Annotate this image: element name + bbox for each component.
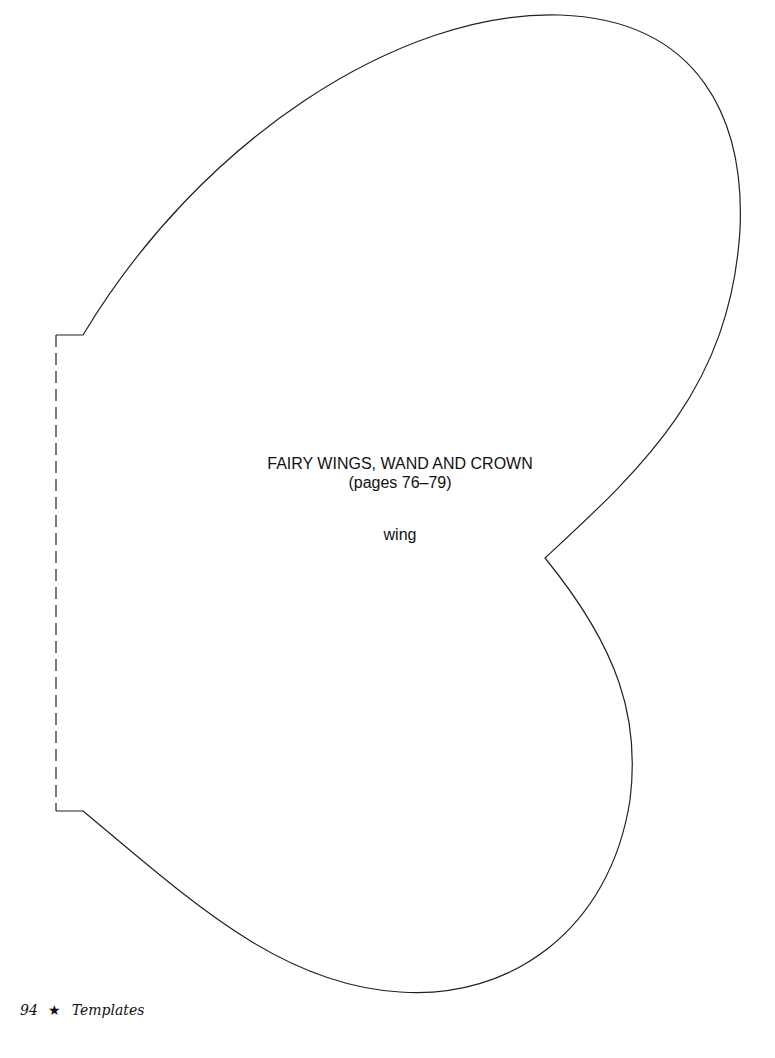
page-number: 94: [20, 1002, 38, 1018]
template-pages: (pages 76–79): [200, 473, 600, 492]
piece-label: wing: [200, 526, 600, 544]
section-name: Templates: [72, 1002, 145, 1018]
wing-cut-line: [56, 15, 740, 993]
template-title: FAIRY WINGS, WAND AND CROWN: [200, 454, 600, 473]
template-heading: FAIRY WINGS, WAND AND CROWN (pages 76–79…: [200, 454, 600, 492]
page-footer: 94 ★ Templates: [20, 1002, 150, 1018]
star-icon: ★: [48, 1002, 61, 1018]
